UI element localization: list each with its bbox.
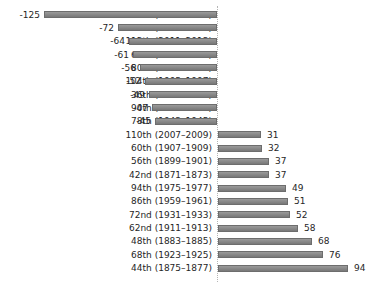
bar	[218, 251, 323, 258]
bar	[145, 78, 217, 85]
value-label: -64	[110, 36, 125, 46]
category-label: 44th (1875–1877)	[131, 263, 212, 273]
bar	[218, 158, 269, 165]
bar	[129, 38, 217, 45]
category-label: 48th (1883–1885)	[131, 236, 212, 246]
value-label: -49	[130, 90, 145, 100]
value-label: 37	[275, 170, 286, 180]
value-label: -52	[126, 76, 141, 86]
value-label: -47	[133, 103, 148, 113]
chart: 54th (1895–1897)-12576th (1939–1941)-721…	[0, 0, 379, 290]
value-label: 76	[329, 250, 340, 260]
category-label: 86th (1959–1961)	[131, 196, 212, 206]
value-label: 52	[296, 210, 307, 220]
bar	[133, 51, 217, 58]
category-label: 72nd (1931–1933)	[129, 210, 212, 220]
category-label: 68th (1923–1925)	[131, 250, 212, 260]
bar	[218, 145, 262, 152]
bar	[218, 211, 290, 218]
bar	[218, 171, 269, 178]
chart-canvas: 54th (1895–1897)-12576th (1939–1941)-721…	[0, 0, 379, 290]
bar	[218, 131, 261, 138]
bar	[152, 104, 217, 111]
category-label: 56th (1899–1901)	[131, 156, 212, 166]
bar	[44, 11, 217, 18]
value-label: 58	[304, 223, 315, 233]
value-label: -61	[114, 50, 129, 60]
value-label: -125	[20, 10, 40, 20]
value-label: 94	[354, 263, 365, 273]
value-label: -56	[121, 63, 136, 73]
bar	[118, 24, 217, 31]
category-label: 42nd (1871–1873)	[129, 170, 212, 180]
category-label: 60th (1907–1909)	[131, 143, 212, 153]
category-label: 62nd (1911–1913)	[129, 223, 212, 233]
value-label: 68	[318, 236, 329, 246]
value-label: -45	[136, 116, 151, 126]
bar	[218, 238, 312, 245]
category-label: 94th (1975–1977)	[131, 183, 212, 193]
value-label: 49	[292, 183, 303, 193]
bar	[149, 91, 217, 98]
bar	[218, 185, 286, 192]
value-label: 51	[294, 196, 305, 206]
bar	[155, 118, 217, 125]
bar	[218, 198, 288, 205]
category-label: 110th (2007–2009)	[125, 130, 212, 140]
bar	[218, 265, 348, 272]
bar	[218, 225, 298, 232]
bar	[140, 64, 217, 71]
value-label: 32	[268, 143, 279, 153]
value-label: 31	[267, 130, 278, 140]
value-label: -72	[99, 23, 114, 33]
value-label: 37	[275, 156, 286, 166]
